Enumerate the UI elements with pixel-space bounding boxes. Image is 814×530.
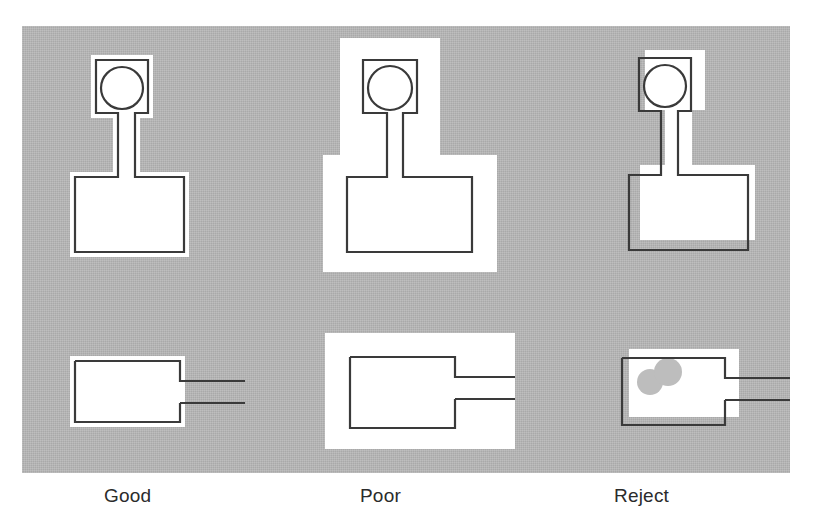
figure-poor-top <box>323 38 497 272</box>
reject-bottom-void-2 <box>654 358 682 386</box>
figure-good-bottom <box>70 356 245 427</box>
figure-reject-top <box>629 50 755 250</box>
good-top-fillet <box>70 55 189 257</box>
figure-poor-bottom <box>325 333 515 449</box>
figure-reject-bottom <box>622 349 790 425</box>
caption-poor: Poor <box>360 485 401 507</box>
inspection-artwork <box>0 0 814 530</box>
poor-bottom-fillet <box>325 333 515 449</box>
reject-top-fillet <box>640 50 755 240</box>
caption-good: Good <box>104 485 151 507</box>
figure-good-top <box>70 55 189 257</box>
good-bottom-fillet <box>70 356 185 427</box>
caption-reject: Reject <box>614 485 669 507</box>
inspection-criteria-figure: Good Poor Reject <box>0 0 814 530</box>
